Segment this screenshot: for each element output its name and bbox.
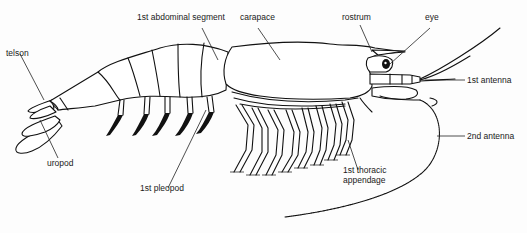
label-first-pleopod: 1st pleopod [140, 183, 184, 193]
label-first-abdominal-segment: 1st abdominal segment [137, 12, 225, 22]
telson-leader [20, 54, 44, 100]
thoracic-appendages [230, 92, 372, 175]
label-eye: eye [425, 12, 439, 22]
shrimp-diagram: telson 1st abdominal segment carapace ro… [0, 0, 527, 233]
eye-leader [390, 28, 430, 64]
label-first-thoracic-appendage-1: 1st thoracic [343, 165, 386, 175]
label-first-antenna: 1st antenna [467, 75, 511, 85]
shrimp-illustration [0, 0, 527, 233]
label-carapace: carapace [240, 12, 275, 22]
antennal-scale [372, 87, 418, 100]
label-second-antenna: 2nd antenna [467, 131, 514, 141]
label-rostrum: rostrum [342, 12, 371, 22]
label-telson: telson [6, 48, 29, 58]
label-uropod: uropod [47, 158, 73, 168]
label-first-thoracic-appendage-2: appendage [343, 175, 386, 185]
first-antenna-flagella [420, 28, 500, 79]
pleopods [106, 96, 214, 136]
